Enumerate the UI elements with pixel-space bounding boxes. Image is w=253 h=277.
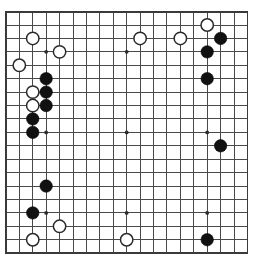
white-stone[interactable] [27,32,39,44]
white-stone[interactable] [134,32,146,44]
star-point [125,211,129,215]
star-point [44,50,48,54]
black-stone[interactable] [201,234,213,246]
white-stone[interactable] [27,99,39,111]
black-stone[interactable] [214,140,226,152]
go-board[interactable] [0,0,253,277]
white-stone[interactable] [53,220,65,232]
white-stone[interactable] [53,46,65,58]
go-board-container [0,0,253,277]
black-stone[interactable] [27,126,39,138]
star-point [125,50,129,54]
black-stone[interactable] [40,180,52,192]
white-stone[interactable] [27,86,39,98]
black-stone[interactable] [40,73,52,85]
white-stone[interactable] [201,19,213,31]
black-stone[interactable] [201,73,213,85]
black-stone[interactable] [27,207,39,219]
star-point [125,130,129,134]
black-stone[interactable] [40,99,52,111]
star-point [205,130,209,134]
black-stone[interactable] [27,113,39,125]
star-point [205,211,209,215]
white-stone[interactable] [120,234,132,246]
white-stone[interactable] [27,234,39,246]
white-stone[interactable] [174,32,186,44]
star-point [44,130,48,134]
black-stone[interactable] [214,32,226,44]
black-stone[interactable] [40,86,52,98]
black-stone[interactable] [201,46,213,58]
star-point [44,211,48,215]
white-stone[interactable] [13,59,25,71]
